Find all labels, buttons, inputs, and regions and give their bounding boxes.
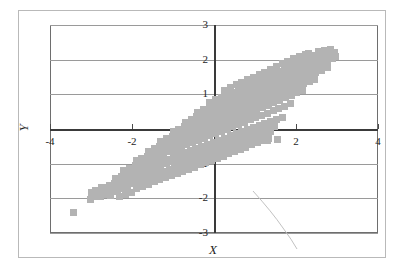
data-point xyxy=(302,51,309,58)
data-point xyxy=(279,114,286,121)
y-axis-title: Y xyxy=(16,124,32,131)
data-point-outlier xyxy=(107,192,114,199)
data-point xyxy=(326,49,333,56)
data-point xyxy=(265,135,272,142)
data-points-layer xyxy=(0,0,404,274)
data-point-outlier xyxy=(70,209,77,216)
x-axis-title: X xyxy=(209,242,217,258)
data-point xyxy=(274,136,281,143)
data-point xyxy=(271,123,278,130)
data-point xyxy=(88,189,95,196)
scatter-plot-figure: 321-1-2-30-4-224 Y X xyxy=(0,0,404,274)
